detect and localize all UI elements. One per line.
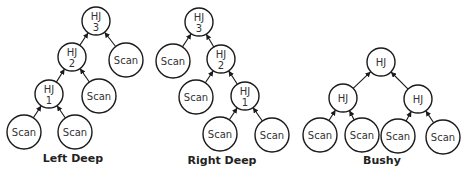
edge-arrow <box>57 106 65 118</box>
scan-node: Scan <box>156 44 190 78</box>
edge-arrow <box>350 111 355 120</box>
hash-join-node: HJ1 <box>231 82 259 110</box>
node-label: HJ <box>338 93 348 104</box>
node-label: Scan <box>184 92 208 103</box>
node-index: 2 <box>69 58 75 69</box>
edge-arrow <box>353 72 370 88</box>
scan-node: Scan <box>58 115 92 149</box>
hash-join-node: HJ1 <box>35 80 63 108</box>
node-index: 1 <box>46 95 52 106</box>
node-index: 1 <box>242 97 248 108</box>
node-label: Scan <box>87 91 111 102</box>
join-tree-diagram: HJ3HJ2ScanHJ1ScanScanScanHJ3ScanHJ2ScanH… <box>0 0 467 175</box>
scan-node: Scan <box>82 79 116 113</box>
node-label: HJ <box>67 47 77 58</box>
nodes-layer: HJ3HJ2ScanHJ1ScanScanScanHJ3ScanHJ2ScanH… <box>7 7 460 154</box>
node-label: Scan <box>63 127 87 138</box>
edge-arrow <box>229 108 237 120</box>
node-label: Scan <box>386 131 410 142</box>
edge-arrow <box>80 33 88 45</box>
captions-layer: Left DeepRight DeepBushy <box>43 152 401 167</box>
edge-arrow <box>33 106 41 118</box>
node-label: HJ <box>413 94 423 105</box>
node-label: Scan <box>431 132 455 143</box>
caption-right-deep: Right Deep <box>188 154 257 167</box>
edge-arrow <box>56 69 64 82</box>
edge-arrow <box>205 71 213 83</box>
node-label: HJ <box>240 86 250 97</box>
scan-node: Scan <box>345 118 379 152</box>
edge-arrow <box>229 71 237 84</box>
caption-bushy: Bushy <box>363 154 401 167</box>
edge-arrow <box>253 108 262 121</box>
node-label: HJ <box>216 49 226 60</box>
scan-node: Scan <box>203 117 237 151</box>
hash-join-node: HJ2 <box>207 45 235 73</box>
edge-arrow <box>426 111 434 123</box>
node-label: Scan <box>350 130 374 141</box>
scan-node: Scan <box>255 118 289 152</box>
edge-arrow <box>406 112 411 121</box>
node-label: Scan <box>12 127 36 138</box>
scan-node: Scan <box>179 80 213 114</box>
hash-join-node: HJ <box>329 84 357 112</box>
node-label: HJ <box>376 57 386 68</box>
node-label: Scan <box>114 55 138 66</box>
edge-arrow <box>391 72 408 89</box>
edge-arrow <box>80 69 89 82</box>
node-label: HJ <box>91 11 101 22</box>
hash-join-node: HJ3 <box>82 7 110 35</box>
scan-node: Scan <box>7 115 41 149</box>
node-label: Scan <box>260 130 284 141</box>
edge-arrow <box>105 32 116 46</box>
hash-join-node: HJ <box>404 85 432 113</box>
scan-node: Scan <box>109 43 143 77</box>
scan-node: Scan <box>426 120 460 154</box>
scan-node: Scan <box>303 118 337 152</box>
node-label: HJ <box>194 12 204 23</box>
node-label: HJ <box>44 84 54 95</box>
node-index: 3 <box>196 23 202 34</box>
hash-join-node: HJ2 <box>58 43 86 71</box>
node-index: 2 <box>218 60 224 71</box>
node-label: Scan <box>208 129 232 140</box>
hash-join-node: HJ3 <box>185 8 213 36</box>
edge-arrow <box>206 34 213 47</box>
caption-left-deep: Left Deep <box>43 152 103 165</box>
scan-node: Scan <box>381 119 415 153</box>
node-label: Scan <box>161 56 185 67</box>
edge-arrow <box>329 110 335 120</box>
edge-arrow <box>182 34 191 47</box>
hash-join-node: HJ <box>367 48 395 76</box>
node-label: Scan <box>308 130 332 141</box>
node-index: 3 <box>93 22 99 33</box>
